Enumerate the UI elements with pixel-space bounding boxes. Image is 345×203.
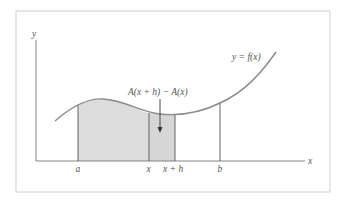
tick-label-x: x	[146, 164, 152, 174]
annotation-label: A(x + h) − A(x)	[127, 87, 188, 98]
curve-label: y = f(x)	[231, 52, 261, 63]
tick-label-a: a	[76, 164, 81, 174]
shaded-strip-x-to-x-plus-h	[149, 113, 175, 161]
area-function-diagram: y x y = f(x) A(x + h) − A(x) a x x + h b	[0, 0, 345, 203]
y-axis-label: y	[31, 29, 37, 39]
tick-label-x-plus-h: x + h	[162, 164, 183, 174]
x-axis-label: x	[307, 156, 313, 166]
tick-label-b: b	[218, 164, 223, 174]
